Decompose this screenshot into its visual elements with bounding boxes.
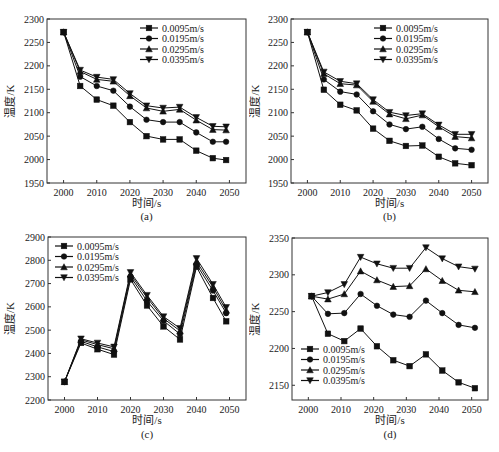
y-tick-label: 2000	[268, 154, 288, 165]
legend-label: 0.0295m/s	[323, 365, 365, 376]
chart-b: 1950200020502100215022002250230020002010…	[249, 0, 499, 226]
y-tick-label: 2300	[268, 14, 288, 25]
y-axis: 22002300240025002600270028002900	[25, 232, 51, 406]
panel-caption: (a)	[140, 210, 153, 223]
circle-marker-icon	[144, 117, 150, 123]
triangle-up-marker-icon	[423, 266, 430, 272]
x-tick-label: 2050	[220, 404, 240, 415]
y-tick-label: 2200	[269, 343, 289, 354]
circle-marker-icon	[321, 77, 327, 83]
y-tick-label: 2700	[25, 278, 45, 289]
y-tick-label: 2200	[268, 60, 288, 71]
x-axis-label: 时间/s	[132, 197, 161, 209]
triangle-down-marker-icon	[357, 254, 364, 260]
circle-marker-icon	[370, 109, 376, 115]
y-axis: 19502000205021002150220022502300	[268, 14, 294, 189]
square-marker-icon	[94, 97, 100, 103]
y-tick-label: 2150	[268, 84, 288, 95]
y-tick-label: 2150	[269, 380, 289, 391]
square-marker-icon	[325, 331, 331, 337]
square-marker-icon	[358, 326, 364, 332]
x-axis-label: 时间/s	[375, 197, 404, 209]
square-marker-icon	[452, 161, 458, 167]
y-tick-label: 2150	[24, 84, 44, 95]
y-tick-label: 2500	[25, 325, 45, 336]
square-marker-icon	[380, 25, 386, 31]
triangle-down-marker-icon	[193, 256, 200, 262]
circle-marker-icon	[61, 254, 67, 260]
x-tick-label: 2040	[187, 404, 207, 415]
triangle-up-marker-icon	[357, 268, 364, 274]
y-tick-label: 1950	[268, 178, 288, 189]
circle-marker-icon	[452, 146, 458, 152]
square-marker-icon	[146, 25, 152, 31]
circle-marker-icon	[193, 130, 199, 136]
legend-label: 0.0295m/s	[77, 262, 119, 273]
circle-marker-icon	[341, 310, 347, 316]
x-tick-label: 2010	[330, 187, 350, 198]
legend: 0.0095m/s0.0195m/s0.0295m/s0.0395m/s	[140, 23, 204, 66]
circle-marker-icon	[407, 314, 413, 320]
legend-label: 0.0295m/s	[162, 44, 204, 55]
square-marker-icon	[127, 119, 133, 125]
y-tick-label: 2100	[268, 107, 288, 118]
y-tick-label: 2050	[268, 131, 288, 142]
circle-marker-icon	[403, 126, 409, 132]
x-tick-label: 2050	[462, 187, 482, 198]
legend-label: 0.0395m/s	[396, 54, 438, 65]
y-tick-label: 2250	[269, 306, 289, 317]
square-marker-icon	[61, 243, 67, 249]
y-tick-label: 2300	[24, 14, 44, 25]
square-marker-icon	[111, 103, 117, 109]
x-tick-label: 2050	[462, 404, 482, 415]
square-marker-icon	[423, 352, 429, 358]
chart-a: 1950200020502100215022002250230020002010…	[0, 0, 250, 226]
legend-label: 0.0195m/s	[162, 33, 204, 44]
circle-marker-icon	[77, 74, 83, 80]
square-marker-icon	[420, 143, 426, 149]
y-tick-label: 2200	[24, 60, 44, 71]
circle-marker-icon	[223, 139, 229, 145]
triangle-up-marker-icon	[439, 277, 446, 283]
circle-marker-icon	[390, 312, 396, 318]
chart-d: 2150220022502300235020002010202020302040…	[249, 226, 499, 452]
legend-label: 0.0195m/s	[396, 33, 438, 44]
circle-marker-icon	[436, 136, 442, 142]
square-marker-icon	[407, 363, 413, 369]
square-marker-icon	[77, 83, 83, 89]
panel-caption: (c)	[141, 428, 154, 441]
legend-label: 0.0095m/s	[77, 241, 119, 252]
circle-marker-icon	[420, 124, 426, 130]
circle-marker-icon	[380, 36, 386, 42]
square-marker-icon	[370, 126, 376, 132]
circle-marker-icon	[374, 303, 380, 309]
data-series	[305, 29, 475, 168]
x-axis-label: 时间/s	[375, 414, 404, 426]
data-series	[305, 29, 475, 152]
y-tick-label: 2600	[25, 301, 45, 312]
triangle-down-marker-icon	[439, 256, 446, 262]
y-tick-label: 1950	[24, 178, 44, 189]
legend-label: 0.0395m/s	[162, 54, 204, 65]
circle-marker-icon	[337, 89, 343, 95]
legend-label: 0.0095m/s	[162, 23, 204, 34]
square-marker-icon	[223, 318, 229, 324]
triangle-down-marker-icon	[341, 282, 348, 288]
square-marker-icon	[144, 133, 150, 139]
square-marker-icon	[307, 346, 313, 352]
circle-marker-icon	[111, 88, 117, 94]
x-tick-label: 2010	[331, 404, 351, 415]
circle-marker-icon	[387, 122, 393, 128]
y-tick-label: 2400	[25, 348, 45, 359]
legend-label: 0.0095m/s	[396, 23, 438, 34]
circle-marker-icon	[177, 119, 183, 125]
chart-panel-a: 1950200020502100215022002250230020002010…	[0, 0, 250, 226]
y-tick-label: 2000	[24, 154, 44, 165]
y-tick-label: 2300	[269, 269, 289, 280]
square-marker-icon	[439, 368, 445, 374]
square-marker-icon	[223, 157, 229, 163]
square-marker-icon	[160, 137, 166, 143]
triangle-up-marker-icon	[374, 277, 381, 283]
y-tick-label: 2050	[24, 131, 44, 142]
chart-panel-d: 2150220022502300235020002010202020302040…	[249, 226, 499, 452]
